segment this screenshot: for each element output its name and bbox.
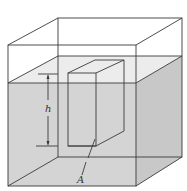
- tank-diagram: h A: [0, 0, 187, 191]
- label-h: h: [45, 103, 51, 114]
- label-A: A: [76, 174, 84, 185]
